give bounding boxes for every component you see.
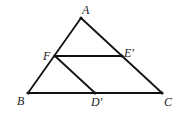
label-d-prime: D' — [90, 95, 103, 109]
point-f — [53, 54, 56, 57]
segment-fd-prime — [55, 56, 95, 93]
label-f: F — [42, 49, 51, 63]
label-b: B — [17, 94, 25, 108]
point-b — [26, 91, 29, 94]
triangle-diagram: A B C F E' D' — [0, 0, 186, 116]
label-e-prime: E' — [123, 46, 134, 60]
label-a: A — [81, 3, 90, 17]
label-c: C — [164, 95, 173, 109]
